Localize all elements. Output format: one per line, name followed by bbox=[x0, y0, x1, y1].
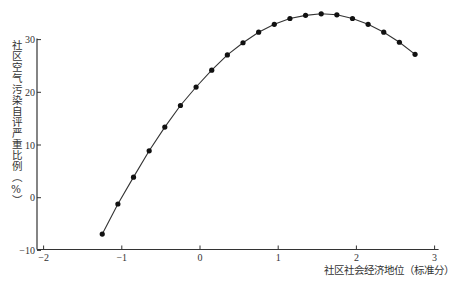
y-tick-label: 20 bbox=[25, 87, 35, 98]
data-point bbox=[131, 175, 136, 180]
data-point bbox=[193, 84, 198, 89]
x-axis-label: 社区社会经济地位（标准分） bbox=[324, 262, 451, 277]
data-point bbox=[319, 11, 324, 16]
data-point bbox=[256, 30, 261, 35]
data-point bbox=[162, 124, 167, 129]
data-point bbox=[303, 13, 308, 18]
data-point bbox=[147, 148, 152, 153]
data-point bbox=[225, 52, 230, 57]
data-point bbox=[100, 231, 105, 236]
y-tick-label: −10 bbox=[19, 245, 35, 256]
data-point bbox=[287, 16, 292, 21]
axes: −100102030−2−10123 bbox=[19, 34, 438, 262]
data-point bbox=[381, 30, 386, 35]
x-tick-label: 2 bbox=[354, 252, 359, 263]
data-point bbox=[178, 103, 183, 108]
data-series bbox=[100, 11, 418, 236]
x-tick-label: 1 bbox=[276, 252, 281, 263]
data-point bbox=[272, 22, 277, 27]
series-line bbox=[102, 14, 415, 234]
y-tick-label: 10 bbox=[25, 140, 35, 151]
data-point bbox=[412, 52, 417, 57]
x-tick-label: −1 bbox=[116, 252, 127, 263]
y-axis-label: 社区空气污染自评严重比例（%） bbox=[7, 40, 21, 206]
data-point bbox=[115, 201, 120, 206]
data-point bbox=[240, 40, 245, 45]
line-chart: −100102030−2−10123 bbox=[0, 0, 451, 283]
x-tick-label: −2 bbox=[38, 252, 49, 263]
x-tick-label: 3 bbox=[432, 252, 437, 263]
y-tick-label: 30 bbox=[25, 34, 35, 45]
y-tick-label: 0 bbox=[30, 192, 35, 203]
data-point bbox=[350, 16, 355, 21]
data-point bbox=[397, 40, 402, 45]
data-point bbox=[366, 22, 371, 27]
x-tick-label: 0 bbox=[198, 252, 203, 263]
data-point bbox=[209, 68, 214, 73]
data-point bbox=[334, 12, 339, 17]
